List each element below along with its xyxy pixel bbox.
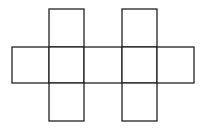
row-square-4 xyxy=(122,47,157,83)
bottom-left-square xyxy=(49,83,84,121)
bottom-right-square xyxy=(122,83,157,121)
row-square-5 xyxy=(157,47,194,83)
row-square-1 xyxy=(12,47,49,83)
row-square-2 xyxy=(49,47,84,83)
top-right-square xyxy=(122,9,157,47)
row-square-3 xyxy=(84,47,122,83)
square-net-diagram xyxy=(0,0,200,131)
top-left-square xyxy=(49,9,84,47)
